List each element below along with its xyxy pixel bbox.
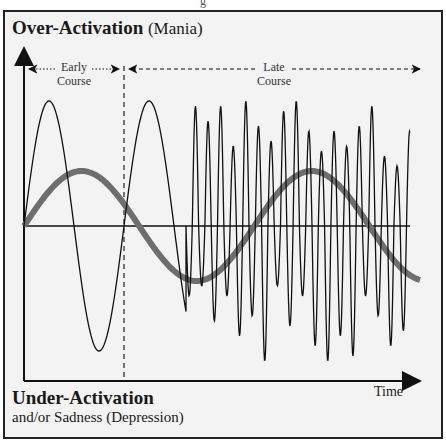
under-activation-label: Under-Activation: [12, 387, 154, 409]
early-course-line2: Course: [52, 74, 96, 88]
over-activation-label: Over-Activation (Mania): [12, 17, 203, 39]
episode-oscillation-curve: [24, 101, 410, 360]
late-course-line1: Late: [252, 60, 296, 74]
depression-label: and/or Sadness (Depression): [12, 409, 184, 426]
early-course-label: Early Course: [52, 60, 96, 88]
early-course-line1: Early: [52, 60, 96, 74]
mania-label: (Mania): [148, 19, 203, 38]
late-course-label: Late Course: [252, 60, 296, 88]
late-course-line2: Course: [252, 74, 296, 88]
time-axis-label: Time: [374, 384, 403, 400]
over-activation-bold: Over-Activation: [12, 17, 143, 38]
